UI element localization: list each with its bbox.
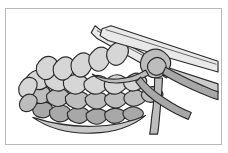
figure-frame: .ln { stroke: #2b2b2b; stroke-width: 1.1… [5,8,222,145]
knitting-illustration: .ln { stroke: #2b2b2b; stroke-width: 1.1… [6,9,221,144]
screenshot-root: .ln { stroke: #2b2b2b; stroke-width: 1.1… [0,0,228,153]
